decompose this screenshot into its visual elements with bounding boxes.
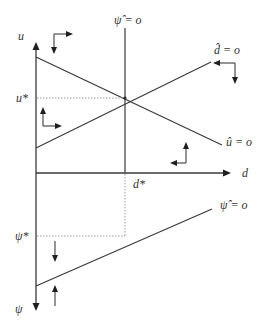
psi-star-label: ψ* [15, 229, 28, 243]
arrow-right-icon [66, 31, 73, 37]
vertical-axis [33, 42, 40, 311]
psi-hat-lower-locus [36, 209, 212, 286]
u-axis-label: u [18, 29, 24, 43]
direction-arrows-upper-right [213, 60, 238, 84]
arrow-up-icon [183, 142, 189, 149]
u-hat-label: û = o [226, 135, 252, 149]
phase-diagram: u ψ d u* d* ψ* ψ̂ = o d̂ = o û = o ψ̂ = … [0, 0, 264, 327]
d-hat-label: d̂ = o [214, 43, 240, 57]
direction-arrows-right-middle [170, 142, 189, 166]
direction-arrows-upper-left [51, 31, 73, 54]
u-star-label: u* [16, 91, 28, 105]
horizontal-axis [36, 170, 231, 177]
arrow-left-icon [170, 160, 177, 166]
psi-hat-vertical-label: ψ̂ = o [114, 13, 142, 27]
arrow-down-icon [52, 255, 58, 262]
direction-arrows-left-middle [40, 107, 62, 129]
arrow-up-icon [40, 107, 46, 114]
equilibrium-point [123, 96, 126, 99]
arrow-down-icon [51, 47, 57, 54]
axis-arrow-down-icon [33, 303, 40, 311]
axis-arrow-up-icon [33, 42, 40, 50]
arrow-right-icon [55, 123, 62, 129]
axis-arrow-right-icon [223, 170, 231, 177]
psi-axis-label: ψ [15, 302, 23, 316]
psi-hat-lower-label: ψ̂ = o [220, 198, 248, 212]
d-axis-label: d [242, 166, 249, 180]
direction-arrow-lower-up [52, 285, 58, 306]
arrow-up-icon [52, 285, 58, 292]
arrow-left-icon [213, 60, 220, 66]
d-hat-locus [36, 62, 211, 148]
arrow-down-icon [232, 77, 238, 84]
direction-arrow-lower-down [52, 241, 58, 262]
d-star-label: d* [133, 177, 145, 191]
